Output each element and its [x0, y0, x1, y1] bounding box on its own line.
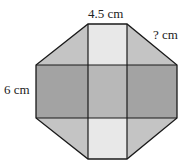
label-top-width: 4.5 cm — [88, 6, 123, 22]
rect-top — [88, 24, 127, 65]
rect-left — [36, 65, 88, 118]
label-left-height: 6 cm — [4, 82, 30, 98]
rect-bottom — [88, 118, 127, 159]
label-diagonal: ? cm — [153, 27, 178, 43]
rect-center — [88, 65, 127, 118]
rect-right — [127, 65, 177, 118]
